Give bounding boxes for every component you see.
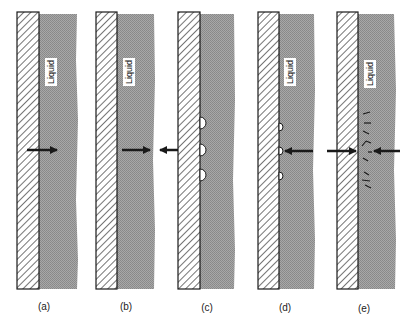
caption-b: (b) xyxy=(120,301,132,312)
liquid-label-b: Liquid xyxy=(123,58,135,86)
heated-wall xyxy=(96,12,117,289)
liquid-region xyxy=(117,14,155,289)
caption-d: (d) xyxy=(279,302,291,313)
liquid-region xyxy=(39,14,78,289)
caption-a: (a) xyxy=(38,301,50,312)
caption-c: (c) xyxy=(201,302,213,313)
bubble-icon xyxy=(279,123,283,131)
panel-e xyxy=(327,12,400,289)
heated-wall xyxy=(258,12,279,289)
bubble-icon xyxy=(279,147,283,155)
liquid-label-a: Liquid xyxy=(45,58,57,86)
panel-d xyxy=(258,12,315,289)
panel-c xyxy=(178,12,235,289)
panel-a xyxy=(17,12,78,289)
bubble-icon xyxy=(279,172,283,180)
heated-wall xyxy=(178,12,200,289)
liquid-label-d: Liquid xyxy=(284,58,296,86)
caption-e: (e) xyxy=(358,303,370,314)
boiling-diagram xyxy=(0,0,417,324)
liquid-label-e: Liquid xyxy=(364,60,376,88)
